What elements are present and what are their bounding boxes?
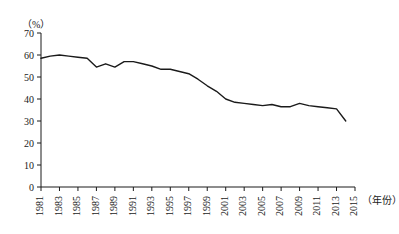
x-tick-label: 2005 — [256, 196, 267, 216]
x-tick-label: 2001 — [219, 196, 230, 216]
x-tick-label: 2007 — [274, 196, 285, 216]
chart-canvas: 0102030405060701981198319851987198919911… — [0, 0, 399, 234]
series-line-bizhong — [41, 55, 346, 121]
x-axis-title: （年份） — [362, 192, 399, 207]
x-tick-label: 1987 — [90, 196, 101, 216]
x-tick-label: 1993 — [145, 196, 156, 216]
y-tick-label: 70 — [24, 28, 34, 39]
y-tick-label: 10 — [24, 160, 34, 171]
x-tick-label: 1995 — [164, 196, 175, 216]
x-tick-label: 1989 — [108, 196, 119, 216]
x-tick-label: 1999 — [201, 196, 212, 216]
y-tick-label: 0 — [29, 182, 34, 193]
x-tick-label: 2013 — [330, 196, 341, 216]
x-tick-label: 1981 — [34, 196, 45, 216]
y-tick-label: 40 — [24, 94, 34, 105]
y-tick-label: 50 — [24, 72, 34, 83]
x-tick-label: 2003 — [237, 196, 248, 216]
y-tick-label: 30 — [24, 116, 34, 127]
y-tick-label: 20 — [24, 138, 34, 149]
x-tick-label: 2011 — [311, 196, 322, 216]
x-tick-label: 1991 — [127, 196, 138, 216]
x-tick-label: 1985 — [71, 196, 82, 216]
y-tick-label: 60 — [24, 50, 34, 61]
x-tick-label: 2009 — [293, 196, 304, 216]
x-tick-label: 1983 — [53, 196, 64, 216]
x-tick-label: 1997 — [182, 196, 193, 216]
x-tick-label: 2015 — [348, 196, 359, 216]
line-chart: （%） 010203040506070198119831985198719891… — [0, 0, 399, 234]
